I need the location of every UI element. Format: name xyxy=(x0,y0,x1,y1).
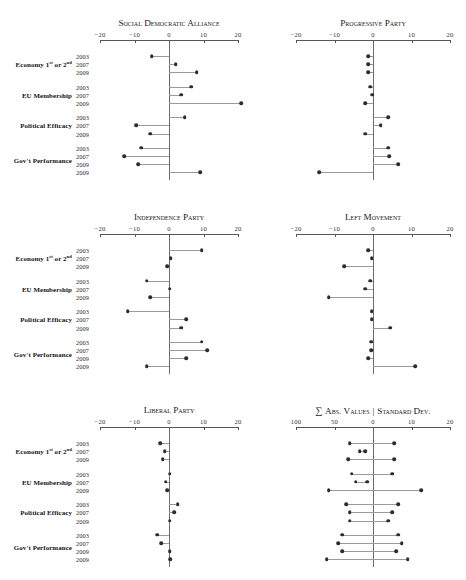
progressive-party-tick-label: 0 xyxy=(371,31,375,38)
year-label: 2003 xyxy=(76,83,89,90)
data-point xyxy=(240,101,244,105)
stem xyxy=(350,512,392,513)
year-label: 2003 xyxy=(76,531,89,538)
panel-title: Liberal Party xyxy=(96,405,242,415)
stem xyxy=(338,543,402,544)
data-point xyxy=(172,511,176,515)
data-point xyxy=(200,248,204,252)
year-label: 2003 xyxy=(76,53,89,60)
year-label: 2009 xyxy=(76,517,89,524)
data-point xyxy=(198,171,202,175)
stem xyxy=(152,56,169,57)
independence-party-tick-label: −10 xyxy=(129,225,140,232)
progressive-party-tick xyxy=(412,40,413,43)
data-point xyxy=(390,511,394,515)
data-point xyxy=(340,549,344,553)
data-point xyxy=(346,458,350,462)
stem xyxy=(136,125,169,126)
stem xyxy=(124,156,169,157)
data-point xyxy=(379,124,383,128)
data-point xyxy=(368,85,372,89)
left-movement-tick-label: 20 xyxy=(447,225,454,232)
progressive-party-tick xyxy=(296,40,297,43)
stem xyxy=(373,366,415,367)
year-label: 2003 xyxy=(76,114,89,121)
data-point xyxy=(169,256,173,260)
year-label: 2007 xyxy=(76,61,89,68)
year-label: 2009 xyxy=(76,294,89,301)
left-movement-tick xyxy=(450,234,451,237)
liberal-party-tick-label: −20 xyxy=(95,418,106,425)
row-label-0: Economy 1st or 2nd xyxy=(0,254,72,262)
data-point xyxy=(183,115,187,119)
stem xyxy=(169,350,207,351)
row-label-2: Political Efficacy xyxy=(0,509,72,516)
year-label: 2009 xyxy=(76,130,89,137)
data-point xyxy=(168,287,172,291)
data-point xyxy=(392,458,396,462)
year-label: 2003 xyxy=(76,308,89,315)
data-point xyxy=(165,265,169,269)
year-label: 2007 xyxy=(76,509,89,516)
year-label: 2009 xyxy=(76,161,89,168)
year-label: 2007 xyxy=(76,91,89,98)
year-label: 2007 xyxy=(76,347,89,354)
data-point xyxy=(184,356,188,360)
data-point xyxy=(370,309,374,313)
data-point xyxy=(369,348,373,352)
data-point xyxy=(136,162,140,166)
data-point xyxy=(174,62,178,66)
data-point xyxy=(400,541,404,545)
data-point xyxy=(179,93,183,97)
stem xyxy=(147,366,169,367)
left-movement-tick xyxy=(296,234,297,237)
data-point xyxy=(387,146,391,150)
social-democratic-alliance-tick-label: 0 xyxy=(167,31,171,38)
stem xyxy=(329,490,421,491)
year-label: 2007 xyxy=(76,122,89,129)
year-label: 2003 xyxy=(76,144,89,151)
data-point xyxy=(163,449,167,453)
stem xyxy=(346,504,398,505)
year-label: 2009 xyxy=(76,169,89,176)
panel-title: Progressive Party xyxy=(290,18,456,28)
data-point xyxy=(325,558,329,562)
data-point xyxy=(145,365,149,369)
independence-party-tick-label: 10 xyxy=(200,225,207,232)
year-label: 2009 xyxy=(76,324,89,331)
sigma-icon: ∑ xyxy=(315,405,325,416)
data-point xyxy=(126,309,130,313)
data-point xyxy=(414,365,418,369)
data-point xyxy=(169,558,173,562)
left-movement-tick xyxy=(335,234,336,237)
data-point xyxy=(160,541,164,545)
stem xyxy=(169,250,202,251)
stem xyxy=(141,148,169,149)
left-movement-tick-label: −20 xyxy=(291,225,302,232)
stem xyxy=(169,103,241,104)
left-movement-tick-label: 0 xyxy=(371,225,375,232)
social-democratic-alliance-tick-label: 20 xyxy=(235,31,242,38)
liberal-party-tick-label: 10 xyxy=(200,418,207,425)
data-point xyxy=(364,449,368,453)
data-point xyxy=(369,340,373,344)
stem xyxy=(169,87,191,88)
social-democratic-alliance-tick-label: −20 xyxy=(95,31,106,38)
data-point xyxy=(392,441,396,445)
data-point xyxy=(367,71,371,75)
row-label-2: Political Efficacy xyxy=(0,316,72,323)
zero-line-progressive-party xyxy=(373,42,374,180)
data-point xyxy=(344,502,348,506)
data-point xyxy=(365,480,369,484)
liberal-party-tick-label: −10 xyxy=(129,418,140,425)
data-point xyxy=(148,295,152,299)
year-label: 2007 xyxy=(76,255,89,262)
data-point xyxy=(364,132,368,136)
data-point xyxy=(134,124,138,128)
year-label: 2007 xyxy=(76,448,89,455)
liberal-party-tick-label: 0 xyxy=(167,418,171,425)
year-label: 2007 xyxy=(76,540,89,547)
year-label: 2009 xyxy=(76,355,89,362)
progressive-party-axis: −20−1001020 xyxy=(0,40,466,50)
data-point xyxy=(337,541,341,545)
